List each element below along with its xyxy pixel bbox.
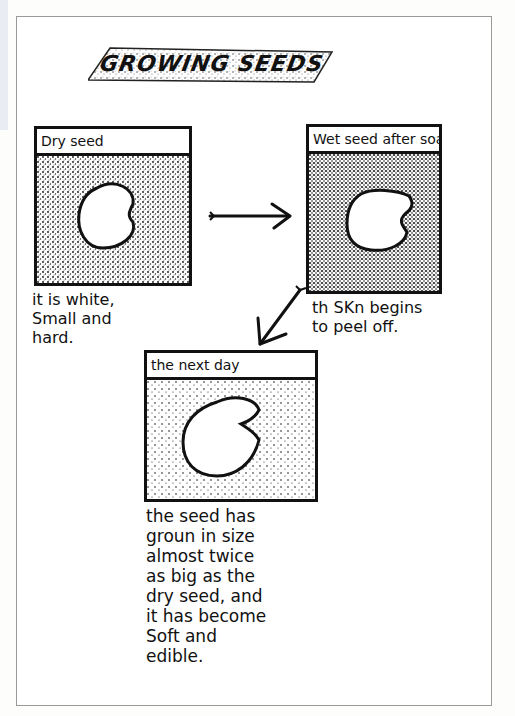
- panel-dry-seed: Dry seed: [34, 126, 192, 286]
- panel-label: Dry seed: [37, 129, 189, 156]
- panel-label: Wet seed after soakin: [309, 127, 439, 154]
- panel-next-day: the next day: [144, 350, 318, 502]
- wet-seed-illustration-icon: [309, 154, 439, 291]
- panel-wet-seed: Wet seed after soakin: [306, 124, 442, 294]
- right-arrow-icon: [206, 200, 296, 230]
- panel-art: [309, 154, 439, 291]
- caption-next-day: the seed has groun in size almost twice …: [146, 506, 266, 666]
- page-title: GROWING SEEDS: [84, 40, 340, 86]
- panel-art: [37, 156, 189, 283]
- next-day-seed-illustration-icon: [147, 380, 315, 499]
- caption-dry-seed: it is white, Small and hard.: [32, 290, 115, 347]
- panel-art: [147, 380, 315, 499]
- caption-wet-seed: th SKn begins to peel off.: [312, 298, 422, 336]
- down-left-arrow-icon: [250, 282, 320, 352]
- title-banner: GROWING SEEDS: [88, 40, 336, 86]
- left-edge-strip: [0, 0, 8, 130]
- panel-label: the next day: [147, 353, 315, 380]
- dry-seed-illustration-icon: [37, 156, 189, 283]
